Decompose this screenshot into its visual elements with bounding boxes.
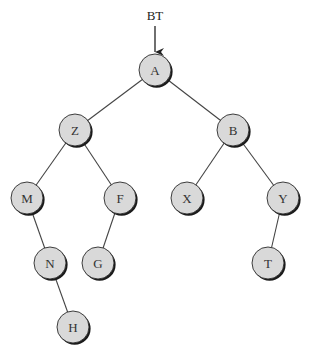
node-label: N [45,256,55,271]
tree-node-n: N [34,247,68,281]
tree-node-g: G [82,247,116,281]
tree-nodes: AZBMFXYNGTH [11,54,301,345]
binary-tree-diagram: BT AZBMFXYNGTH [0,0,310,358]
node-label: Z [71,123,79,138]
node-label: F [116,191,123,206]
node-label: Y [278,191,288,206]
root-pointer-label: BT [147,8,164,23]
root-pointer: BT [147,8,164,52]
node-label: G [93,256,102,271]
tree-node-m: M [11,182,45,216]
tree-node-h: H [57,311,91,345]
tree-node-a: A [139,54,173,88]
node-label: H [68,320,77,335]
tree-edges [27,70,283,327]
node-label: X [182,191,192,206]
tree-node-t: T [252,247,286,281]
tree-node-b: B [217,114,251,148]
node-label: M [21,191,33,206]
node-label: B [229,123,238,138]
node-label: A [150,63,160,78]
tree-node-f: F [104,182,138,216]
tree-node-x: X [171,182,205,216]
node-label: T [264,256,272,271]
tree-node-z: Z [59,114,93,148]
tree-node-y: Y [267,182,301,216]
